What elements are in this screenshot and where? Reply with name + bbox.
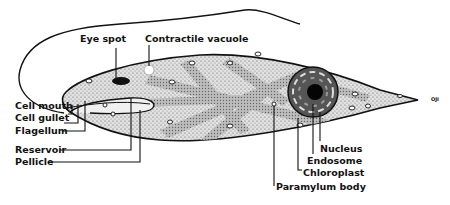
label-eye-spot: Eye spot [80,33,126,44]
label-nucleus: Nucleus [320,143,363,154]
label-flagellum: Flagellum [15,125,68,136]
label-paramylum-body: Paramylum body [276,181,367,192]
label-endosome: Endosome [307,155,362,166]
label-chloroplast: Chloroplast [303,167,365,178]
label-cell-gullet: Cell gullet [15,112,70,123]
label-contractile-vacuole: Contractile vacuole [145,33,249,44]
label-reservoir: Reservoir [15,144,67,155]
endosome-shape [307,84,323,100]
label-cell-mouth: Cell mouth [15,100,73,111]
artist-signature: OJI [431,96,439,102]
eye-spot-shape [112,77,130,85]
label-pellicle: Pellicle [15,156,54,167]
euglena-diagram: Eye spot Contractile vacuole Cell mouth … [0,0,450,205]
contractile-vacuole-shape [144,65,154,75]
